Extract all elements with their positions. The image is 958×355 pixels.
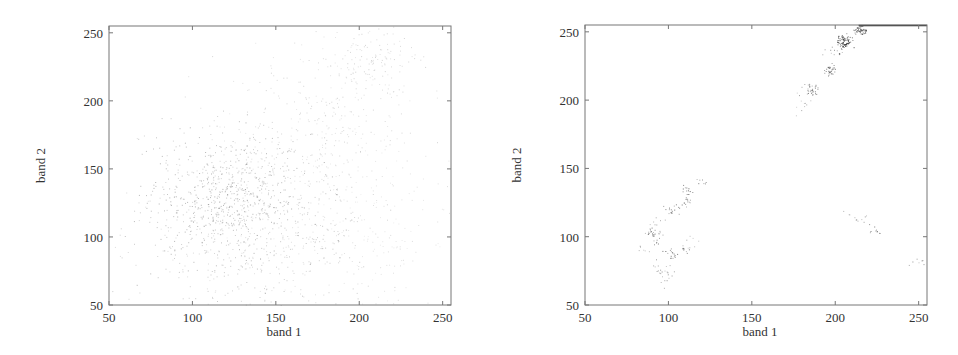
y-tick-label: 200 [560, 93, 580, 108]
y-axis-title: band 2 [509, 147, 524, 182]
x-tick-label: 250 [909, 310, 929, 325]
y-tick-label: 250 [560, 25, 580, 40]
y-tick-label: 200 [84, 94, 104, 109]
plot-canvas-right: 5010015020025050100150200250band 1band 2 [479, 0, 958, 355]
x-tick-label: 150 [266, 310, 286, 325]
y-tick-label: 50 [90, 298, 103, 313]
x-tick-label: 200 [349, 310, 369, 325]
x-tick-label: 250 [433, 310, 453, 325]
data-points [639, 25, 925, 288]
x-tick-label: 100 [183, 310, 203, 325]
x-tick-label: 100 [659, 310, 679, 325]
plot-frame [109, 26, 451, 305]
y-axis-title: band 2 [33, 148, 48, 183]
y-tick-label: 100 [560, 230, 580, 245]
plot-frame [585, 25, 927, 305]
plot-canvas-left: 5010015020025050100150200250band 1band 2 [0, 0, 479, 355]
x-tick-label: 150 [742, 310, 762, 325]
scatter-plot-left: 5010015020025050100150200250band 1band 2 [0, 0, 479, 355]
scatter-plot-right: 5010015020025050100150200250band 1band 2 [479, 0, 958, 355]
x-tick-label: 50 [579, 310, 592, 325]
x-tick-label: 50 [103, 310, 116, 325]
data-points [112, 27, 450, 306]
x-axis-title: band 1 [266, 324, 301, 339]
y-tick-label: 100 [84, 230, 104, 245]
x-tick-label: 200 [825, 310, 845, 325]
x-axis-title: band 1 [742, 324, 777, 339]
y-tick-label: 150 [84, 162, 104, 177]
y-tick-label: 150 [560, 161, 580, 176]
y-tick-label: 250 [84, 26, 104, 41]
y-tick-label: 50 [566, 298, 579, 313]
